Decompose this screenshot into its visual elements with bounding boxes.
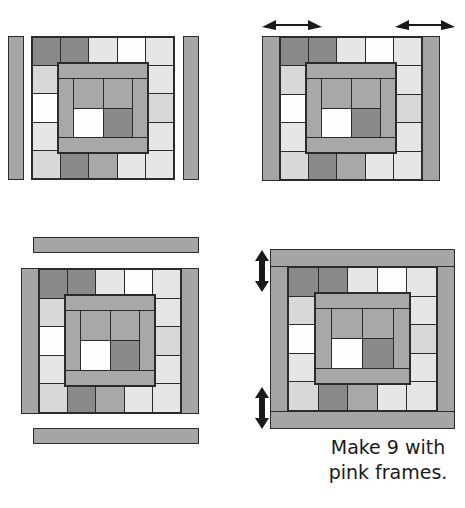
inner-center-r2c1 [74, 109, 102, 137]
block-cell-r2c5 [153, 299, 180, 327]
block-cell-r5c1 [289, 382, 318, 410]
inner-log-cabin-frame-step-3 [64, 294, 156, 387]
block-cell-r5c4 [378, 382, 407, 410]
block-cell-r5c3 [348, 382, 377, 410]
block-cell-r1c5 [146, 38, 173, 65]
inner-frame-top-bar [307, 64, 395, 78]
inner-frame-right-bar [394, 309, 409, 367]
inner-frame-left-bar [66, 311, 80, 369]
inner-frame-right-bar [381, 79, 395, 137]
bottom-horizontal-strip-detached [33, 428, 199, 444]
step-4-panel: Make 9 with pink frames. [232, 232, 465, 508]
vertical-double-arrow-top [254, 250, 270, 292]
block-cell-r5c2 [319, 382, 348, 410]
horizontal-double-arrow-right [395, 18, 455, 34]
inner-frame-bottom-bar [59, 138, 147, 152]
left-vertical-strip-attached [21, 268, 39, 414]
vertical-double-arrow-bottom [254, 387, 270, 429]
block-cell-r2c5 [146, 66, 173, 93]
inner-frame-top-bar [66, 296, 154, 310]
block-cell-r5c5 [153, 384, 180, 412]
inner-frame-right-bar [133, 79, 147, 137]
block-cell-r1c5 [153, 270, 180, 298]
block-cell-r5c5 [407, 382, 436, 410]
block-cell-r1c5 [394, 38, 421, 65]
left-vertical-strip-attached [262, 36, 280, 181]
inner-center-r1c2 [104, 79, 132, 107]
inner-center-r1c2 [363, 309, 393, 338]
inner-frame-right-bar [140, 311, 154, 369]
inner-frame-top-bar [316, 294, 409, 308]
block-cell-r5c3 [89, 151, 116, 178]
step-3-panel [0, 232, 232, 508]
inner-center-r1c1 [332, 309, 362, 338]
block-cell-r3c5 [153, 327, 180, 355]
top-horizontal-strip-attached [270, 249, 455, 267]
right-vertical-strip-attached [422, 36, 440, 181]
inner-center-r2c1 [81, 341, 109, 370]
inner-frame-bottom-bar [307, 138, 395, 152]
block-cell-r5c1 [33, 151, 60, 178]
inner-center-r2c2 [104, 109, 132, 137]
inner-log-cabin-frame-step-2 [305, 62, 397, 154]
inner-frame-bottom-bar [316, 369, 409, 383]
block-cell-r5c4 [366, 152, 393, 179]
inner-frame-left-bar [59, 79, 73, 137]
step-2-panel [232, 0, 465, 232]
inner-frame-top-bar [59, 64, 147, 78]
block-cell-r4c5 [394, 123, 421, 150]
inner-center-r1c1 [74, 79, 102, 107]
right-vertical-strip-attached [437, 266, 455, 412]
block-cell-r5c5 [394, 152, 421, 179]
right-vertical-strip-attached [181, 268, 199, 414]
step-1-panel [0, 0, 232, 232]
block-cell-r5c3 [337, 152, 364, 179]
inner-center-r2c2 [363, 339, 393, 368]
block-cell-r4c5 [407, 354, 436, 382]
block-cell-r5c4 [118, 151, 145, 178]
block-cell-r5c4 [125, 384, 152, 412]
inner-center-r2c1 [322, 109, 350, 137]
block-cell-r1c5 [407, 268, 436, 296]
block-cell-r3c5 [146, 94, 173, 121]
left-vertical-strip-attached [270, 266, 288, 412]
inner-frame-bottom-bar [66, 371, 154, 385]
block-cell-r5c5 [146, 151, 173, 178]
block-cell-r5c1 [40, 384, 67, 412]
block-cell-r3c5 [394, 95, 421, 122]
instruction-caption: Make 9 with pink frames. [308, 435, 465, 485]
horizontal-double-arrow-left [262, 18, 322, 34]
inner-center-r1c1 [322, 79, 350, 107]
bottom-horizontal-strip-attached [270, 411, 455, 429]
block-cell-r2c5 [407, 297, 436, 325]
inner-frame-left-bar [316, 309, 331, 367]
top-horizontal-strip-detached [33, 237, 199, 253]
block-cell-r5c2 [61, 151, 88, 178]
inner-log-cabin-frame-step-4 [314, 292, 411, 385]
inner-center-r2c1 [332, 339, 362, 368]
inner-frame-left-bar [307, 79, 321, 137]
right-vertical-strip-detached [183, 36, 199, 180]
block-cell-r4c5 [146, 123, 173, 150]
block-cell-r3c5 [407, 325, 436, 353]
inner-log-cabin-frame-step-1 [57, 62, 149, 154]
inner-center-r1c2 [352, 79, 380, 107]
inner-center-r1c1 [81, 311, 109, 340]
inner-center-r1c2 [111, 311, 139, 340]
block-cell-r5c2 [309, 152, 336, 179]
left-vertical-strip-detached [8, 36, 24, 180]
block-cell-r4c5 [153, 356, 180, 384]
block-cell-r5c1 [281, 152, 308, 179]
block-cell-r5c3 [96, 384, 123, 412]
inner-center-r2c2 [111, 341, 139, 370]
block-cell-r5c2 [68, 384, 95, 412]
block-cell-r2c5 [394, 66, 421, 93]
inner-center-r2c2 [352, 109, 380, 137]
